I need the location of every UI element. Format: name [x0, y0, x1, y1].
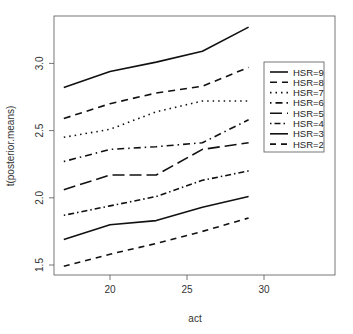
- series-lines: [64, 27, 249, 266]
- series-line-hsr-5: [64, 143, 249, 190]
- series-line-hsr-4: [64, 171, 249, 215]
- series-line-hsr-7: [64, 101, 249, 137]
- y-axis-label: t(posterior.means): [5, 106, 16, 187]
- series-line-hsr-2: [64, 218, 249, 266]
- line-chart: 202530 1.52.02.53.0 act t(posterior.mean…: [0, 0, 353, 334]
- x-axis-label: act: [188, 313, 202, 324]
- legend-label: HSR=2: [293, 139, 324, 150]
- series-line-hsr-6: [64, 120, 249, 162]
- y-tick-label: 3.0: [34, 56, 45, 70]
- x-axis: 202530: [104, 275, 270, 295]
- y-axis: 1.52.02.53.0: [34, 56, 54, 272]
- series-line-hsr-8: [64, 67, 249, 118]
- x-tick-label: 25: [181, 284, 193, 295]
- y-tick-label: 2.5: [34, 123, 45, 137]
- legend: HSR=9HSR=8HSR=7HSR=6HSR=5HSR=4HSR=3HSR=2: [264, 62, 324, 152]
- x-tick-label: 20: [104, 284, 116, 295]
- x-tick-label: 30: [258, 284, 270, 295]
- y-tick-label: 1.5: [34, 258, 45, 272]
- y-tick-label: 2.0: [34, 190, 45, 204]
- series-line-hsr-3: [64, 197, 249, 240]
